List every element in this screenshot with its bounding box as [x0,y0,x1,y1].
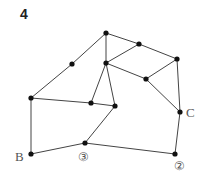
edge-n7-n8 [31,98,91,103]
node-label-b: B [15,150,24,163]
edge-n5-n6 [106,63,146,79]
node-C [177,109,182,114]
edge-n4-n7 [31,64,72,98]
edge-n9-n11 [85,106,115,143]
edge-label-2: ② [174,160,185,172]
graph-edges [31,33,180,154]
edge-n13-C [175,112,180,154]
edge-n6-C [146,79,180,112]
edge-n1-n2 [106,33,139,44]
node-n1 [103,30,108,35]
edge-label-3: ③ [78,151,89,163]
edge-n5-n8 [91,63,106,103]
edge-n8-n9 [91,103,115,106]
edge-n3-C [177,59,180,112]
edge-n6-n3 [146,59,177,79]
node-n6 [143,76,148,81]
node-n13 [172,151,177,156]
edge-n5-n9 [106,63,115,106]
node-n8 [88,100,93,105]
node-n7 [28,95,33,100]
node-B [28,151,33,156]
edge-n2-n3 [139,44,177,59]
edge-B-n11 [31,143,85,154]
node-n11 [82,140,87,145]
node-n5 [103,60,108,65]
node-label-c: C [186,106,195,119]
node-n4 [69,61,74,66]
edge-n11-n13 [85,143,175,154]
node-n2 [136,41,141,46]
edge-n5-n2 [106,44,139,63]
edge-n1-n4 [72,33,106,64]
node-n3 [174,56,179,61]
node-n9 [112,103,117,108]
